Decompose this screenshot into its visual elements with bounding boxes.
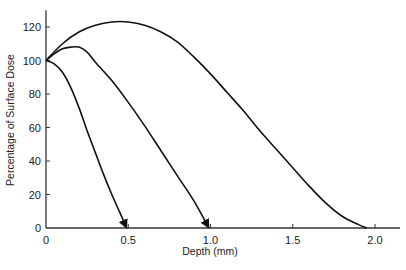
x-tick-label: 0.5 bbox=[121, 234, 136, 246]
series-line-1 bbox=[46, 61, 127, 229]
y-tick-label: 80 bbox=[29, 88, 41, 100]
x-tick-label: 1.5 bbox=[285, 234, 300, 246]
series-group bbox=[46, 22, 367, 228]
series-line-3 bbox=[46, 22, 367, 228]
y-tick-label: 20 bbox=[29, 189, 41, 201]
y-axis-label: Percentage of Surface Dose bbox=[4, 54, 16, 186]
y-tick-label: 0 bbox=[35, 222, 41, 234]
dose-depth-chart: 02040608010012000.51.01.52.0 Depth (mm) … bbox=[0, 0, 406, 270]
y-tick-label: 120 bbox=[23, 21, 41, 33]
axes: 02040608010012000.51.01.52.0 bbox=[23, 10, 400, 246]
y-tick-label: 60 bbox=[29, 122, 41, 134]
y-tick-label: 100 bbox=[23, 55, 41, 67]
x-tick-label: 2.0 bbox=[367, 234, 382, 246]
x-axis-label: Depth (mm) bbox=[182, 245, 237, 257]
x-tick-label: 0 bbox=[43, 234, 49, 246]
y-tick-label: 40 bbox=[29, 155, 41, 167]
series-line-2 bbox=[46, 47, 209, 228]
